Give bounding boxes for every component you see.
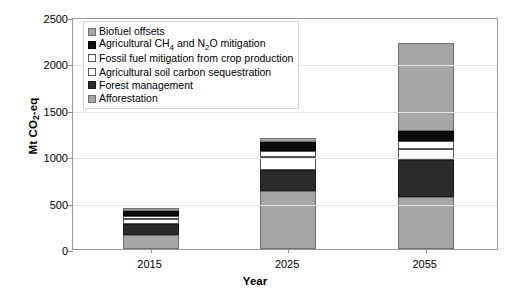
legend-label: Afforestation xyxy=(99,93,158,104)
x-tick-label-2015: 2015 xyxy=(105,258,195,270)
legend-swatch-icon xyxy=(88,41,96,49)
bar-2015[interactable] xyxy=(123,208,179,249)
y-gridline xyxy=(73,112,497,113)
y-tick-mark xyxy=(68,158,73,159)
bar-segment[interactable] xyxy=(260,142,316,150)
chart-figure: Mt CO2-eq 05001000150020002500 Year Biof… xyxy=(0,0,510,303)
legend-item[interactable]: Fossil fuel mitigation from crop product… xyxy=(88,52,293,65)
bar-segment[interactable] xyxy=(398,160,454,197)
legend-swatch-icon xyxy=(88,28,96,36)
legend-item[interactable]: Agricultural soil carbon sequestration xyxy=(88,65,293,78)
legend-label: Agricultural CH4 and N2O mitigation xyxy=(99,38,265,52)
y-tick-mark xyxy=(68,205,73,206)
bar-2055[interactable] xyxy=(398,43,454,249)
legend-item[interactable]: Forest management xyxy=(88,79,293,92)
legend-label: Fossil fuel mitigation from crop product… xyxy=(99,53,293,64)
legend-swatch-icon xyxy=(88,54,96,62)
bar-segment[interactable] xyxy=(398,141,454,148)
bar-segment[interactable] xyxy=(123,235,179,249)
bar-segment[interactable] xyxy=(398,43,454,131)
chart-legend: Biofuel offsetsAgricultural CH4 and N2O … xyxy=(83,21,299,109)
y-tick-label: 0 xyxy=(62,246,68,257)
x-axis-title: Year xyxy=(0,275,510,287)
y-tick-mark xyxy=(68,112,73,113)
y-axis-title-tail: -eq xyxy=(27,98,39,116)
bar-segment[interactable] xyxy=(260,138,316,143)
bar-2025[interactable] xyxy=(260,138,316,249)
y-tick-mark xyxy=(68,19,73,20)
legend-swatch-icon xyxy=(88,68,96,76)
x-tick-mark xyxy=(426,249,427,253)
x-tick-label-2055: 2055 xyxy=(380,258,470,270)
y-tick-mark xyxy=(68,65,73,66)
legend-item[interactable]: Agricultural CH4 and N2O mitigation xyxy=(88,38,293,51)
y-gridline xyxy=(73,158,497,159)
bar-segment[interactable] xyxy=(260,151,316,157)
y-tick-label: 500 xyxy=(50,199,68,210)
y-axis-title-subscript: 2 xyxy=(31,115,41,120)
x-tick-mark xyxy=(151,249,152,253)
y-gridline xyxy=(73,205,497,206)
legend-item[interactable]: Afforestation xyxy=(88,92,293,105)
bar-segment[interactable] xyxy=(123,219,179,224)
x-tick-mark xyxy=(288,249,289,253)
y-tick-mark xyxy=(68,251,73,252)
bar-segment[interactable] xyxy=(398,131,454,141)
legend-label: Forest management xyxy=(99,80,193,91)
bar-segment[interactable] xyxy=(260,191,316,249)
bar-segment[interactable] xyxy=(123,224,179,235)
legend-swatch-icon xyxy=(88,95,96,103)
bar-segment[interactable] xyxy=(123,211,179,216)
legend-label: Biofuel offsets xyxy=(99,26,165,37)
bar-segment[interactable] xyxy=(123,208,179,211)
y-tick-label: 2500 xyxy=(44,14,68,25)
bar-segment[interactable] xyxy=(123,216,179,219)
bar-segment[interactable] xyxy=(260,170,316,191)
legend-swatch-icon xyxy=(88,81,96,89)
y-axis-title-main: Mt CO xyxy=(27,120,39,154)
y-tick-label: 1500 xyxy=(44,106,68,117)
x-tick-label-2025: 2025 xyxy=(242,258,332,270)
y-axis-title: Mt CO2-eq xyxy=(27,71,39,181)
y-tick-label: 1000 xyxy=(44,153,68,164)
legend-label: Agricultural soil carbon sequestration xyxy=(99,67,271,78)
y-tick-label: 2000 xyxy=(44,60,68,71)
